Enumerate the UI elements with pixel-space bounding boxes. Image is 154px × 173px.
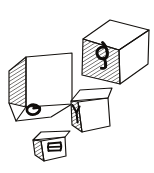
cube-left-front-face xyxy=(26,53,72,107)
cube-small-right xyxy=(71,88,112,132)
cube-large-left xyxy=(9,53,72,121)
cube-large-topright xyxy=(82,20,149,84)
sketch-canvas: G d Y B Hand-drawn isometric cubes with … xyxy=(0,0,154,173)
cube-sketch-illustration xyxy=(0,0,154,173)
cube-tiny-bottom xyxy=(33,131,70,161)
